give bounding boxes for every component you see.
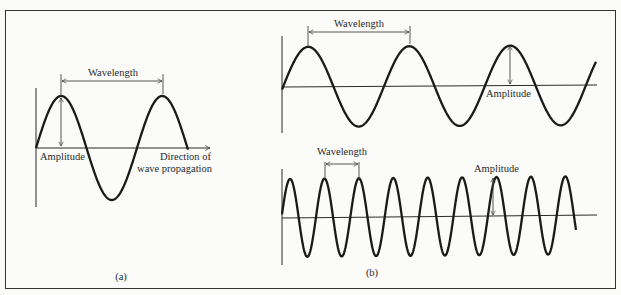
panel-a: Wavelength Amplitude Direction of wave p…: [36, 67, 213, 283]
direction-label-line2: wave propagation: [137, 163, 213, 174]
wavelength-label: Wavelength: [317, 146, 368, 157]
wavelength-label: Wavelength: [88, 67, 139, 78]
wave-diagram: Wavelength Amplitude Direction of wave p…: [0, 0, 621, 295]
baseline: [282, 215, 597, 218]
caption-b: (b): [366, 267, 379, 279]
baseline: [282, 85, 597, 87]
panel-b-bottom: Wavelength Amplitude (b): [282, 146, 597, 279]
direction-label-line1: Direction of: [160, 151, 212, 162]
amplitude-label: Amplitude: [40, 151, 85, 162]
panel-b-top: Wavelength Amplitude: [282, 18, 597, 133]
amplitude-label: Amplitude: [486, 88, 531, 99]
amplitude-label: Amplitude: [474, 163, 519, 174]
caption-a: (a): [115, 271, 127, 283]
wavelength-label: Wavelength: [334, 18, 385, 29]
